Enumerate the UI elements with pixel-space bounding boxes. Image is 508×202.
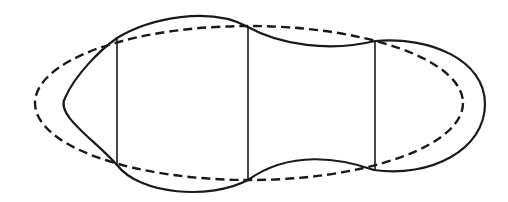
dashed-ellipse bbox=[35, 26, 463, 180]
diagram-canvas bbox=[0, 0, 508, 202]
